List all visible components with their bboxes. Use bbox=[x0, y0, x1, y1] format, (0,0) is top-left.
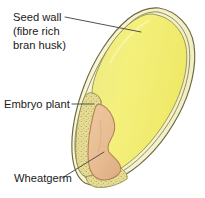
label-wheatgerm: Wheatgerm bbox=[14, 172, 72, 184]
seed-wall-label-line-1: Seed wall bbox=[13, 11, 62, 23]
label-seed-wall: Seed wall (fibre rich bran husk) bbox=[13, 11, 66, 51]
diagram-canvas: Seed wall (fibre rich bran husk) Embryo … bbox=[0, 0, 205, 198]
embryo-plant-label-line-1: Embryo plant bbox=[4, 98, 71, 110]
wheat-grain-diagram: Seed wall (fibre rich bran husk) Embryo … bbox=[0, 0, 205, 198]
wheatgerm-label-line-1: Wheatgerm bbox=[14, 172, 72, 184]
seed-wall-label-line-3: bran husk) bbox=[13, 39, 66, 51]
seed-wall-label-line-2: (fibre rich bbox=[13, 25, 60, 37]
label-embryo-plant: Embryo plant bbox=[4, 98, 71, 110]
